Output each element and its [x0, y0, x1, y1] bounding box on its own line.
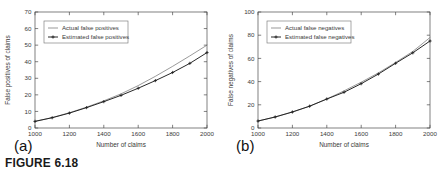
legend-label: Actual false negatives — [285, 24, 344, 31]
y-tick-label: 60 — [25, 25, 32, 32]
data-point-marker — [137, 87, 140, 90]
data-point-marker — [274, 115, 277, 118]
y-tick-label: 100 — [244, 8, 255, 15]
data-point-marker — [51, 116, 54, 119]
data-point-marker — [68, 111, 71, 114]
panel-label-a: (a) — [14, 138, 33, 153]
x-tick-label: 2000 — [423, 130, 437, 137]
chart-panel-a: 100012001400160018002000010203040506070N… — [0, 0, 223, 148]
series-line-2 — [35, 53, 207, 122]
data-point-marker — [325, 97, 328, 100]
x-tick-label: 1600 — [354, 130, 368, 137]
data-point-marker — [154, 79, 157, 82]
legend-label: Actual false positives — [62, 24, 119, 31]
data-point-marker — [256, 119, 259, 122]
series-line-1 — [258, 38, 430, 122]
x-tick-label: 1400 — [97, 130, 111, 137]
chart-legend: Actual false positivesEstimated false po… — [44, 21, 129, 43]
figure-caption: FIGURE 6.18 — [5, 155, 78, 170]
y-tick-label: 80 — [248, 31, 255, 38]
chart-legend: Actual false negativesEstimated false ne… — [267, 21, 354, 43]
series-line-1 — [35, 45, 207, 121]
y-tick-label: 60 — [248, 55, 255, 62]
y-tick-label: 70 — [25, 8, 32, 15]
y-axis-title: False negatives of claims — [227, 34, 235, 106]
legend-label: Estimated false positives — [62, 33, 129, 40]
x-tick-label: 2000 — [200, 130, 214, 137]
chart-b-canvas: 100012001400160018002000020406080100Numb… — [223, 0, 446, 148]
series-line-2 — [258, 41, 430, 121]
x-tick-label: 1800 — [389, 130, 403, 137]
y-axis-title: False positives of claims — [4, 35, 12, 104]
y-tick-label: 30 — [25, 74, 32, 81]
x-axis-title: Number of claims — [319, 141, 369, 148]
y-tick-label: 40 — [248, 78, 255, 85]
x-tick-label: 1600 — [131, 130, 145, 137]
data-point-marker — [33, 120, 36, 123]
data-point-marker — [291, 110, 294, 113]
x-tick-label: 1800 — [166, 130, 180, 137]
figure-6-18: 100012001400160018002000010203040506070N… — [0, 0, 446, 174]
y-tick-label: 20 — [25, 91, 32, 98]
x-axis-title: Number of claims — [96, 141, 146, 148]
chart-a-canvas: 100012001400160018002000010203040506070N… — [0, 0, 223, 148]
panel-label-b: (b) — [236, 138, 255, 153]
x-tick-label: 1200 — [63, 130, 77, 137]
y-tick-label: 50 — [25, 41, 32, 48]
y-tick-label: 0 — [28, 124, 32, 131]
x-tick-label: 1200 — [286, 130, 300, 137]
y-tick-label: 0 — [251, 124, 255, 131]
chart-panel-b: 100012001400160018002000020406080100Numb… — [223, 0, 446, 148]
y-tick-label: 40 — [25, 58, 32, 65]
data-point-marker — [308, 105, 311, 108]
y-tick-label: 10 — [25, 108, 32, 115]
y-tick-label: 20 — [248, 101, 255, 108]
legend-label: Estimated false negatives — [285, 33, 354, 40]
x-tick-label: 1400 — [320, 130, 334, 137]
